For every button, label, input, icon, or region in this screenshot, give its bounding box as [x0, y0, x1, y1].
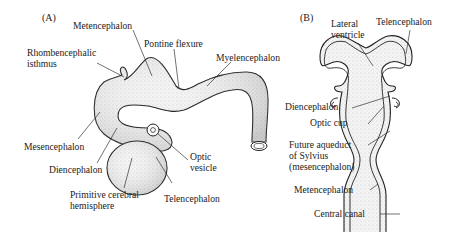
- label-metencephalon-a: Metencephalon: [73, 20, 132, 31]
- label-optic-vesicle-2: vesicle: [190, 162, 217, 173]
- label-future-aqueduct-2: of Sylvius: [289, 150, 328, 161]
- label-future-aqueduct-1: Future aqueduct: [289, 139, 351, 150]
- label-mesencephalon: Mesencephalon: [24, 141, 84, 152]
- panel-b-section: [320, 36, 412, 232]
- panel-a-brain-tube: [94, 57, 268, 195]
- label-primitive-cerebral-hemisphere-2: hemisphere: [70, 200, 114, 211]
- label-optic-vesicle-1: Optic: [190, 151, 211, 162]
- label-central-canal: Central canal: [314, 208, 365, 219]
- label-pontine-flexure: Pontine flexure: [144, 38, 203, 49]
- label-optic-cup: Optic cup: [310, 117, 348, 128]
- label-lateral-ventricle-2: ventricle: [331, 29, 365, 40]
- panel-b-label: (B): [300, 12, 313, 23]
- label-myelencephalon: Myelencephalon: [216, 52, 280, 63]
- label-rhombencephalic-isthmus-1: Rhombencephalic: [27, 47, 96, 58]
- label-lateral-ventricle-1: Lateral: [331, 18, 358, 29]
- section-outer-wall: [320, 36, 412, 232]
- panel-a-label: (A): [42, 12, 56, 23]
- label-telencephalon-a: Telencephalon: [164, 193, 220, 204]
- label-metencephalon-b: Metencephalon: [294, 184, 353, 195]
- label-rhombencephalic-isthmus-2: isthmus: [27, 58, 57, 69]
- label-primitive-cerebral-hemisphere-1: Primitive cerebral: [70, 189, 139, 200]
- label-diencephalon-a: Diencephalon: [49, 164, 102, 175]
- label-diencephalon-b: Diencephalon: [285, 101, 338, 112]
- label-future-aqueduct-3: (mesencephalon): [289, 161, 355, 172]
- optic-cup-right: [392, 98, 399, 108]
- label-telencephalon-b: Telencephalon: [376, 16, 432, 27]
